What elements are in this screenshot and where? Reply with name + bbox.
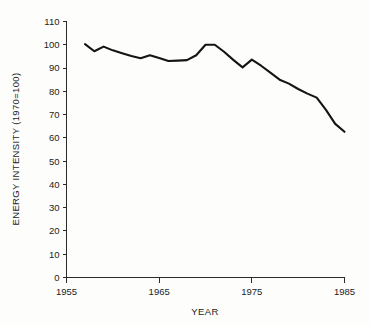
y-tick-label: 80 [49, 86, 60, 97]
y-tick-label: 110 [44, 16, 59, 27]
y-tick-label: 60 [49, 132, 60, 143]
energy-intensity-line-chart: 0102030405060708090100110 19551965197519… [0, 0, 370, 324]
x-axis-tick-labels: 1955196519751985 [56, 286, 355, 297]
y-tick-label: 100 [44, 39, 60, 50]
x-tick-label: 1985 [334, 286, 355, 297]
chart-canvas: 0102030405060708090100110 19551965197519… [0, 0, 370, 324]
x-axis-tick-marks [67, 278, 345, 283]
y-tick-label: 20 [49, 225, 60, 236]
y-tick-label: 90 [49, 62, 60, 73]
x-tick-label: 1955 [56, 286, 77, 297]
y-axis-tick-labels: 0102030405060708090100110 [44, 16, 60, 283]
data-series-line [85, 44, 344, 132]
y-axis-title: ENERGY INTENSITY (1970=100) [10, 73, 21, 226]
x-axis-title: YEAR [191, 306, 218, 317]
y-tick-label: 40 [49, 179, 60, 190]
y-tick-label: 10 [49, 249, 60, 260]
y-tick-label: 50 [49, 156, 60, 167]
y-tick-label: 30 [49, 202, 60, 213]
y-axis-tick-marks [63, 22, 67, 278]
y-tick-label: 70 [49, 109, 60, 120]
x-tick-label: 1975 [241, 286, 262, 297]
y-tick-label: 0 [54, 272, 59, 283]
x-tick-label: 1965 [149, 286, 170, 297]
